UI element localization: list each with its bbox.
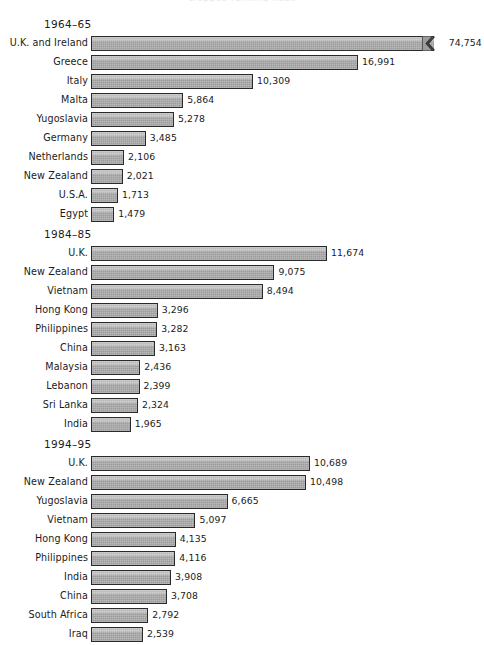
value-label: 1,965 — [135, 416, 162, 432]
bar-row: Italy10,309 — [0, 73, 484, 92]
bar-wrap — [91, 608, 148, 623]
value-label: 5,097 — [199, 512, 226, 528]
value-label: 74,754 — [449, 35, 482, 51]
bar — [91, 417, 131, 432]
panel-title: 1994–95 — [44, 438, 91, 450]
bar-row: Malta5,864 — [0, 92, 484, 111]
bar-row: U.K. and Ireland74,754 — [0, 35, 484, 54]
bar — [91, 303, 158, 318]
value-label: 3,282 — [161, 321, 188, 337]
category-label: Netherlands — [0, 149, 88, 165]
value-label: 3,163 — [159, 340, 186, 356]
value-label: 1,479 — [118, 206, 145, 222]
bar-row: China3,163 — [0, 340, 484, 359]
bar-row: Philippines3,282 — [0, 321, 484, 340]
category-label: Vietnam — [0, 283, 88, 299]
value-label: 10,689 — [314, 455, 347, 471]
bar — [91, 284, 263, 299]
bar-wrap — [91, 379, 140, 394]
value-label: 6,665 — [232, 493, 259, 509]
bar-wrap — [91, 398, 138, 413]
bar — [91, 74, 253, 89]
panel-title: 1984–85 — [44, 228, 91, 240]
bar — [91, 513, 195, 528]
value-label: 3,708 — [171, 588, 198, 604]
bar-row: Yugoslavia6,665 — [0, 493, 484, 512]
category-label: Sri Lanka — [0, 397, 88, 413]
bar-wrap — [91, 188, 118, 203]
bar-row: Hong Kong4,135 — [0, 531, 484, 550]
value-label: 5,864 — [187, 92, 214, 108]
bar — [91, 265, 274, 280]
bar-row: New Zealand9,075 — [0, 264, 484, 283]
value-label: 3,296 — [162, 302, 189, 318]
bar-wrap — [91, 169, 123, 184]
bar-wrap — [91, 341, 155, 356]
category-label: Philippines — [0, 321, 88, 337]
category-label: Hong Kong — [0, 531, 88, 547]
bar-row: Yugoslavia5,278 — [0, 111, 484, 130]
value-label: 5,278 — [178, 111, 205, 127]
value-label: 11,674 — [331, 245, 364, 261]
axis-break-icon — [422, 36, 435, 51]
bar — [91, 589, 167, 604]
bar-row: U.K.10,689 — [0, 455, 484, 474]
bar-wrap — [91, 532, 176, 547]
bar-wrap — [91, 131, 146, 146]
bar-wrap — [91, 475, 306, 490]
bar-row: Egypt1,479 — [0, 206, 484, 225]
category-label: China — [0, 588, 88, 604]
cropped-running-head: cropped running head — [0, 0, 484, 2]
category-label: U.S.A. — [0, 187, 88, 203]
bar-row: U.K.11,674 — [0, 245, 484, 264]
bar — [91, 150, 124, 165]
category-label: India — [0, 416, 88, 432]
bar-truncated — [91, 36, 434, 51]
value-label: 2,021 — [127, 168, 154, 184]
bar-rows: U.K.10,689New Zealand10,498Yugoslavia6,6… — [0, 455, 484, 645]
bar-wrap — [91, 112, 174, 127]
bar-wrap — [91, 456, 310, 471]
bar — [91, 207, 114, 222]
bar-rows: U.K.11,674New Zealand9,075Vietnam8,494Ho… — [0, 245, 484, 435]
category-label: New Zealand — [0, 168, 88, 184]
bar-wrap — [91, 36, 434, 51]
value-label: 3,485 — [150, 130, 177, 146]
bar — [91, 551, 175, 566]
bar-row: Malaysia2,436 — [0, 359, 484, 378]
bar-wrap — [91, 360, 140, 375]
bar — [91, 627, 143, 642]
bar-row: Vietnam8,494 — [0, 283, 484, 302]
category-label: Philippines — [0, 550, 88, 566]
bar-wrap — [91, 551, 175, 566]
bar — [91, 112, 174, 127]
category-label: Yugoslavia — [0, 493, 88, 509]
bar-row: Hong Kong3,296 — [0, 302, 484, 321]
bar-row: China3,708 — [0, 588, 484, 607]
panel-title: 1964–65 — [44, 18, 91, 30]
value-label: 16,991 — [362, 54, 395, 70]
bar — [91, 456, 310, 471]
bar-row: Philippines4,116 — [0, 550, 484, 569]
bar — [91, 379, 140, 394]
value-label: 4,116 — [179, 550, 206, 566]
bar-wrap — [91, 570, 171, 585]
bar — [91, 360, 140, 375]
bar-row: New Zealand10,498 — [0, 474, 484, 493]
category-label: New Zealand — [0, 474, 88, 490]
bar-row: Iraq2,539 — [0, 626, 484, 645]
bar-wrap — [91, 494, 228, 509]
bar — [91, 608, 148, 623]
category-label: U.K. — [0, 245, 88, 261]
bar — [91, 188, 118, 203]
bar-wrap — [91, 284, 263, 299]
bar-row: Netherlands2,106 — [0, 149, 484, 168]
bar-wrap — [91, 246, 327, 261]
bar-rows: U.K. and Ireland74,754Greece16,991Italy1… — [0, 35, 484, 225]
bar-row: India1,965 — [0, 416, 484, 435]
category-label: Egypt — [0, 206, 88, 222]
value-label: 10,309 — [257, 73, 290, 89]
value-label: 2,792 — [152, 607, 179, 623]
bar-row: India3,908 — [0, 569, 484, 588]
